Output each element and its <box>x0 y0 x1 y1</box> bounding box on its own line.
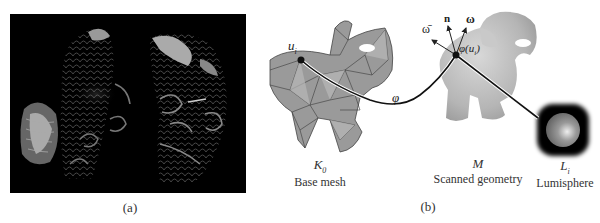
label-lumisphere: Li Lumisphere <box>535 158 595 191</box>
label-base-mesh: K0 Base mesh <box>290 157 350 190</box>
label-phi: φ <box>392 90 399 106</box>
label-scanned-geometry: M Scanned geometry <box>430 156 526 187</box>
label-omega-bar: ω̄ <box>422 22 430 37</box>
label-n: n <box>444 12 450 24</box>
label-omega: ω <box>466 12 475 27</box>
caption-b: (b) <box>406 199 450 215</box>
label-phi-u-i: φ(ui) <box>459 42 480 57</box>
lumisphere <box>537 104 589 156</box>
label-u-i: ui <box>288 38 297 56</box>
point-u-i <box>298 57 305 64</box>
